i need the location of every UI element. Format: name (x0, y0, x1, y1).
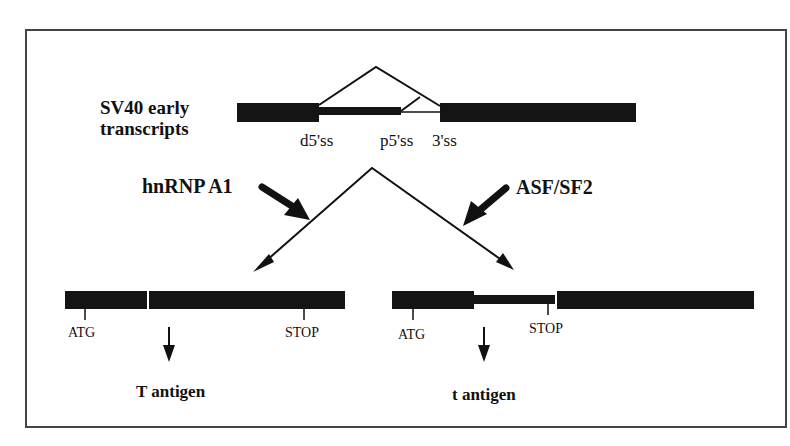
label-d5ss: d5'ss (300, 132, 333, 149)
pre-mrna (237, 67, 636, 122)
label-atg-right: ATG (398, 328, 425, 342)
splice-junction-distal (319, 67, 440, 106)
right-mrna (392, 291, 754, 362)
diagram-title: SV40 early transcripts (100, 97, 189, 139)
splice-junction-proximal (401, 97, 420, 111)
splicing-diagram (0, 0, 790, 446)
label-stop-right: STOP (529, 322, 563, 336)
label-T-antigen: T antigen (136, 383, 205, 400)
exon-2 (440, 103, 636, 122)
intron-retained-segment (319, 107, 401, 115)
title-line-1: SV40 early (100, 97, 189, 118)
label-stop-left: STOP (285, 326, 319, 340)
label-asf-sf2: ASF/SF2 (516, 177, 593, 197)
label-hnrnp-a1: hnRNP A1 (142, 176, 233, 196)
title-line-2: transcripts (100, 118, 189, 139)
label-3ss: 3'ss (432, 132, 457, 149)
factor-arrows (262, 187, 506, 226)
label-p5ss: p5'ss (380, 132, 413, 149)
label-t-antigen: t antigen (452, 386, 516, 403)
exon-1 (237, 103, 319, 122)
label-atg-left: ATG (68, 326, 95, 340)
